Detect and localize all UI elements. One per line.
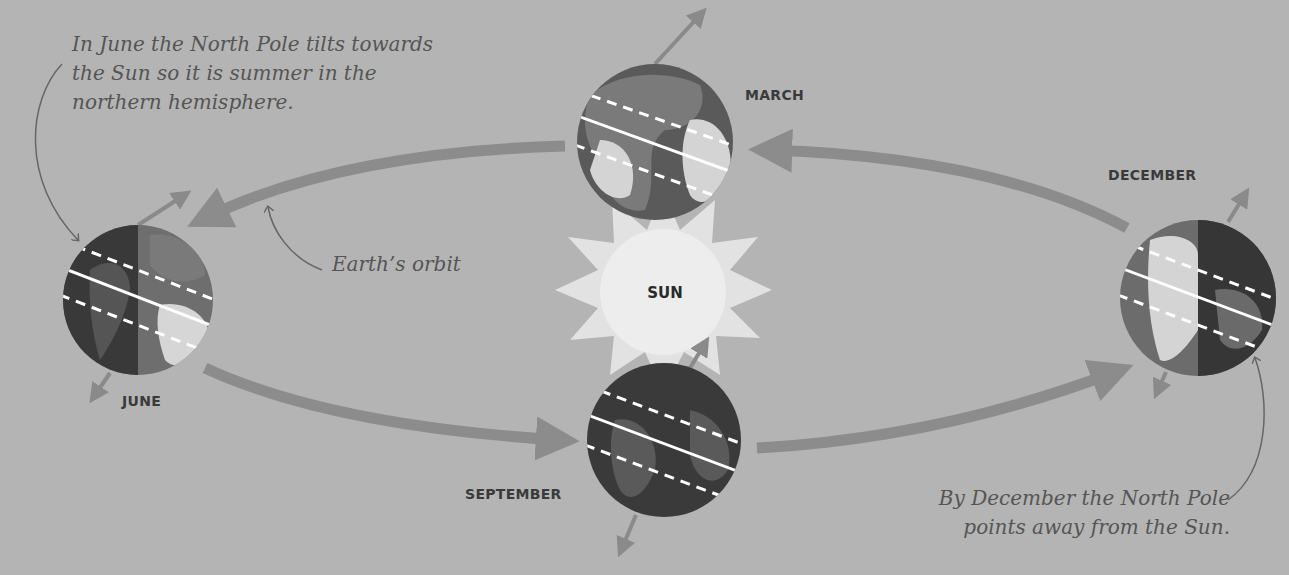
axis-arrow-icon bbox=[622, 515, 636, 548]
sun-label: SUN bbox=[625, 284, 705, 302]
label-september: SEPTEMBER bbox=[465, 486, 562, 502]
axis-arrow-icon bbox=[655, 15, 700, 64]
annotation-june-line-2: the Sun so it is summer in the bbox=[72, 59, 433, 88]
label-december: DECEMBER bbox=[1108, 167, 1196, 183]
annotation-june: In June the North Pole tilts towards the… bbox=[72, 30, 433, 117]
annotation-june-line-3: northern hemisphere. bbox=[72, 88, 433, 117]
globe-september bbox=[585, 345, 745, 548]
orbit-arrow-march-to-june bbox=[205, 146, 565, 218]
label-june: JUNE bbox=[122, 393, 161, 409]
globe-june bbox=[60, 196, 220, 395]
globe-march bbox=[570, 15, 740, 230]
axis-arrow-icon bbox=[95, 373, 110, 395]
orbit-arrow-december-to-march bbox=[768, 150, 1127, 228]
label-march: MARCH bbox=[745, 87, 804, 103]
globe-december bbox=[1118, 196, 1278, 390]
axis-arrow-icon bbox=[138, 196, 183, 225]
axis-arrow-icon bbox=[1158, 372, 1166, 390]
annotation-december-line-2: points away from the Sun. bbox=[850, 513, 1230, 542]
pointer-arrow-orbit-note bbox=[268, 207, 322, 270]
pointer-arrow-december-note bbox=[1228, 358, 1264, 500]
annotation-orbit: Earth’s orbit bbox=[332, 250, 461, 279]
annotation-june-line-1: In June the North Pole tilts towards bbox=[72, 30, 433, 59]
orbit-arrow-september-to-december bbox=[757, 372, 1115, 448]
annotation-december-line-1: By December the North Pole bbox=[850, 484, 1230, 513]
annotation-december: By December the North Pole points away f… bbox=[850, 484, 1230, 542]
axis-arrow-icon bbox=[1228, 196, 1244, 222]
orbit-arrow-june-to-september bbox=[205, 368, 560, 440]
